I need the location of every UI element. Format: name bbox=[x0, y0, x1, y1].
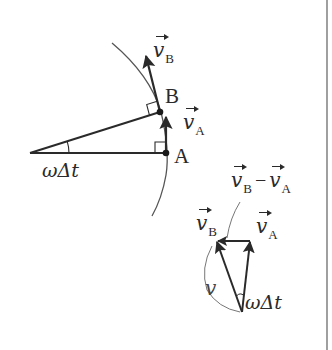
label-point-A: A bbox=[174, 146, 189, 167]
circular-motion-figure: vB B vA A ωΔt vB−vA vB vA v ωΔt bbox=[0, 0, 332, 350]
label-angle-bottom: ωΔt bbox=[245, 293, 282, 312]
triangle-vector-vB bbox=[217, 242, 242, 312]
label-vA-top: vA bbox=[183, 112, 205, 132]
point-B-dot bbox=[157, 109, 164, 116]
difference-guide-curve bbox=[227, 202, 240, 238]
label-difference: vB−vA bbox=[231, 170, 291, 190]
label-vB-bottom: vB bbox=[196, 213, 217, 233]
vector-arrow-icon: v bbox=[183, 112, 194, 132]
center-angle-arc bbox=[67, 141, 69, 153]
vector-arrow-icon: v bbox=[153, 40, 164, 60]
label-vA-bottom: vA bbox=[256, 216, 278, 236]
point-A-dot bbox=[163, 150, 170, 157]
radius-OB bbox=[30, 112, 160, 153]
label-point-B: B bbox=[165, 86, 179, 107]
label-magnitude-v: v bbox=[205, 278, 216, 298]
vector-arrow-icon: v bbox=[231, 170, 242, 190]
vector-arrow-icon: v bbox=[269, 170, 280, 190]
vector-arrow-icon: v bbox=[196, 213, 207, 233]
vector-arrow-icon: v bbox=[256, 216, 267, 236]
circular-path-arc bbox=[112, 43, 167, 216]
label-angle-top: ωΔt bbox=[42, 161, 79, 180]
label-vB-top: vB bbox=[153, 40, 174, 60]
